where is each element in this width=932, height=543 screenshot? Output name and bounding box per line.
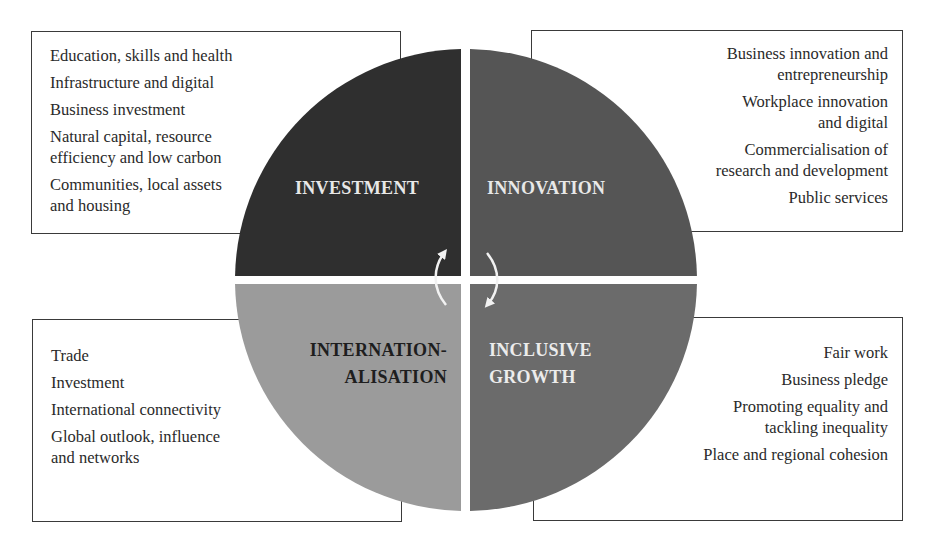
list-item: Natural capital, resource efficiency and… — [50, 126, 232, 168]
internationalisation-items-list: Trade Investment International connectiv… — [51, 345, 221, 474]
list-item: Public services — [716, 187, 888, 208]
list-item: Trade — [51, 345, 221, 366]
list-item: Communities, local assets and housing — [50, 174, 232, 216]
list-item: Business pledge — [703, 369, 888, 390]
list-item: Commercialisation of research and develo… — [716, 139, 888, 181]
list-item: Investment — [51, 372, 221, 393]
list-item: International connectivity — [51, 399, 221, 420]
list-item: Workplace innovation and digital — [716, 91, 888, 133]
list-item: Business investment — [50, 99, 232, 120]
inclusive-growth-items-list: Fair work Business pledge Promoting equa… — [703, 342, 888, 471]
investment-items-list: Education, skills and health Infrastruct… — [50, 45, 232, 222]
list-item: Fair work — [703, 342, 888, 363]
list-item: Global outlook, influence and networks — [51, 426, 221, 468]
inclusive-growth-label: INCLUSIVE GROWTH — [489, 337, 592, 391]
list-item: Infrastructure and digital — [50, 72, 232, 93]
list-item: Promoting equality and tackling inequali… — [703, 396, 888, 438]
list-item: Place and regional cohesion — [703, 444, 888, 465]
investment-label: INVESTMENT — [295, 175, 419, 202]
innovation-label: INNOVATION — [487, 175, 605, 202]
innovation-items-list: Business innovation and entrepreneurship… — [716, 43, 888, 214]
list-item: Business innovation and entrepreneurship — [716, 43, 888, 85]
internationalisation-label: INTERNATION- ALISATION — [310, 337, 447, 391]
list-item: Education, skills and health — [50, 45, 232, 66]
